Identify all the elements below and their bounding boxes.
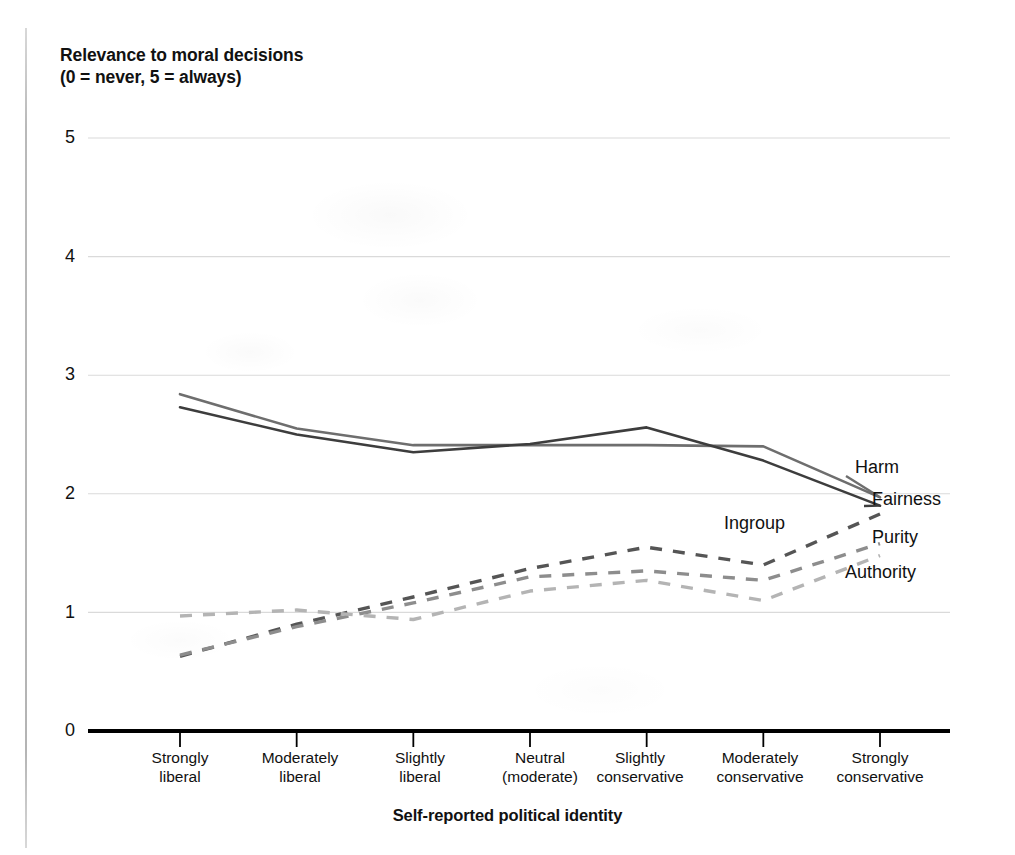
y-tick-3: 3 bbox=[45, 364, 75, 385]
x-tick-1: Moderately liberal bbox=[230, 748, 370, 786]
x-tick-6: Strongly conservative bbox=[806, 748, 954, 786]
plot-area bbox=[0, 0, 1015, 855]
y-tick-2: 2 bbox=[45, 483, 75, 504]
series-label-ingroup: Ingroup bbox=[724, 513, 785, 534]
y-tick-1: 1 bbox=[45, 602, 75, 623]
y-tick-4: 4 bbox=[45, 246, 75, 267]
y-tick-0: 0 bbox=[45, 720, 75, 741]
x-axis-title: Self-reported political identity bbox=[0, 806, 1015, 825]
scan-noise-overlay bbox=[0, 0, 1015, 855]
series-label-fairness: Fairness bbox=[872, 489, 941, 510]
series-label-authority: Authority bbox=[845, 562, 916, 583]
y-tick-5: 5 bbox=[45, 127, 75, 148]
chart-page: Relevance to moral decisions (0 = never,… bbox=[0, 0, 1015, 855]
x-tick-0: Strongly liberal bbox=[110, 748, 250, 786]
page-margin-rule bbox=[25, 28, 27, 848]
chart-title: Relevance to moral decisions (0 = never,… bbox=[60, 44, 303, 88]
series-label-purity: Purity bbox=[872, 527, 918, 548]
series-label-harm: Harm bbox=[855, 457, 899, 478]
x-tick-2: Slightly liberal bbox=[350, 748, 490, 786]
